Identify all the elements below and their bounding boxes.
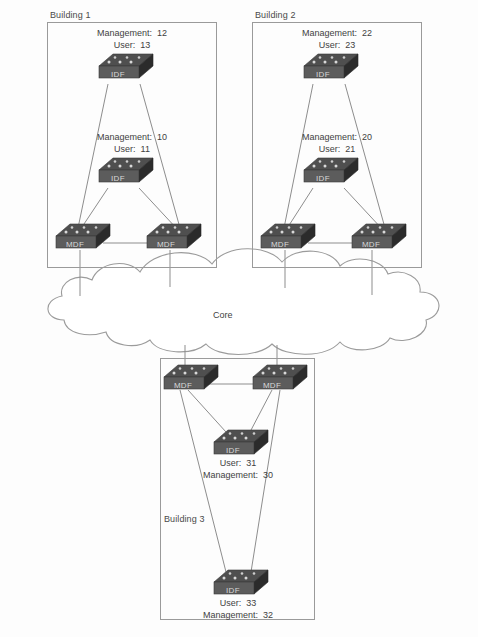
switch-b2-idf-mid[interactable]: IDF <box>303 156 359 190</box>
switch-b3-idf-bottom[interactable]: IDF <box>213 568 269 602</box>
b2-idf-mid-management: Management: 20 <box>277 132 397 144</box>
switch-b3-idf-mid[interactable]: IDF <box>213 428 269 462</box>
b2-idf-mid-annotation: Management: 20 User: 21 <box>277 132 397 155</box>
switch-b2-idf-top[interactable]: IDF <box>303 52 359 86</box>
switch-b1-mdf-right[interactable]: MDF <box>146 222 202 256</box>
switch-b1-idf-top[interactable]: IDF <box>98 52 154 86</box>
core-label: Core <box>213 310 233 320</box>
b3-idf-mid-management: Management: 30 <box>178 470 298 482</box>
b1-idf-mid-management: Management: 10 <box>72 132 192 144</box>
switch-b3-mdf-left[interactable]: MDF <box>163 363 219 397</box>
b1-idf-mid-user: User: 11 <box>72 144 192 156</box>
b1-idf-top-user: User: 13 <box>72 40 192 52</box>
switch-b1-idf-mid[interactable]: IDF <box>98 156 154 190</box>
building-1-label: Building 1 <box>50 10 91 20</box>
b3-idf-bottom-user: User: 33 <box>178 598 298 610</box>
b3-idf-bottom-annotation: User: 33 Management: 32 <box>178 598 298 621</box>
building-2-label: Building 2 <box>255 10 296 20</box>
switch-b2-mdf-right[interactable]: MDF <box>351 222 407 256</box>
b1-idf-top-management: Management: 12 <box>72 28 192 40</box>
switch-b2-mdf-left[interactable]: MDF <box>260 222 316 256</box>
b1-idf-mid-annotation: Management: 10 User: 11 <box>72 132 192 155</box>
switch-b3-mdf-right[interactable]: MDF <box>252 363 308 397</box>
b3-idf-mid-user: User: 31 <box>178 458 298 470</box>
b2-idf-top-user: User: 23 <box>277 40 397 52</box>
building-3-label: Building 3 <box>164 514 205 524</box>
b3-idf-bottom-management: Management: 32 <box>178 610 298 622</box>
b2-idf-mid-user: User: 21 <box>277 144 397 156</box>
b2-idf-top-annotation: Management: 22 User: 23 <box>277 28 397 51</box>
switch-b1-mdf-left[interactable]: MDF <box>55 222 111 256</box>
b2-idf-top-management: Management: 22 <box>277 28 397 40</box>
b3-idf-mid-annotation: User: 31 Management: 30 <box>178 458 298 481</box>
b1-idf-top-annotation: Management: 12 User: 13 <box>72 28 192 51</box>
network-diagram-canvas: Building 1 Management: 12 User: 13 IDF M… <box>0 0 478 637</box>
